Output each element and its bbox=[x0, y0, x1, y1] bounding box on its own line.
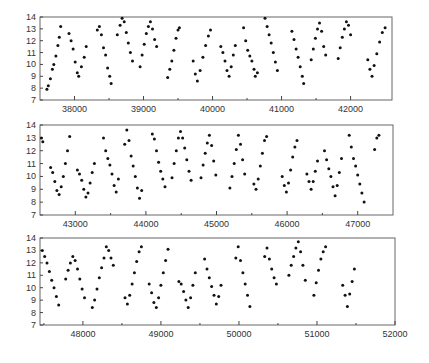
y-tick-label: 10 bbox=[26, 283, 36, 293]
y-tick-label: 8 bbox=[31, 83, 36, 93]
y-tick-label: 7 bbox=[31, 210, 36, 220]
panel-2: 78910111213144300044000450004600047000 bbox=[26, 120, 393, 229]
y-tick-label: 12 bbox=[26, 146, 36, 156]
y-tick-label: 10 bbox=[26, 171, 36, 181]
y-tick-label: 9 bbox=[31, 184, 36, 194]
y-tick-label: 9 bbox=[31, 71, 36, 81]
plot-frame bbox=[40, 125, 393, 215]
x-tick-label: 50000 bbox=[226, 329, 251, 339]
y-tick-label: 12 bbox=[26, 258, 36, 268]
x-tick-label: 43000 bbox=[63, 219, 88, 229]
plot-frame bbox=[40, 238, 395, 325]
y-tick-label: 8 bbox=[31, 308, 36, 318]
x-tick-label: 49000 bbox=[148, 329, 173, 339]
y-tick-label: 7 bbox=[31, 95, 36, 105]
x-tick-label: 42000 bbox=[338, 104, 363, 114]
y-tick-label: 12 bbox=[26, 36, 36, 46]
y-tick-label: 13 bbox=[26, 245, 36, 255]
y-tick-label: 11 bbox=[27, 159, 36, 169]
x-tick-label: 51000 bbox=[304, 329, 329, 339]
y-tick-label: 14 bbox=[26, 120, 36, 130]
x-tick-label: 44000 bbox=[133, 219, 158, 229]
x-tick-label: 45000 bbox=[204, 219, 229, 229]
y-tick-label: 7 bbox=[31, 320, 36, 330]
x-tick-label: 47000 bbox=[345, 219, 370, 229]
y-tick-label: 10 bbox=[26, 59, 36, 69]
y-tick-label: 13 bbox=[26, 24, 36, 34]
panel-1: 78910111213143800039000400004100042000 bbox=[26, 12, 392, 114]
x-tick-label: 38000 bbox=[62, 104, 87, 114]
y-tick-label: 14 bbox=[26, 233, 36, 243]
y-tick-label: 11 bbox=[27, 270, 36, 280]
x-tick-label: 52000 bbox=[382, 329, 407, 339]
y-tick-label: 11 bbox=[27, 48, 36, 58]
x-tick-label: 40000 bbox=[200, 104, 225, 114]
x-tick-label: 39000 bbox=[131, 104, 156, 114]
x-tick-label: 48000 bbox=[70, 329, 95, 339]
y-tick-label: 13 bbox=[26, 133, 36, 143]
x-tick-label: 41000 bbox=[269, 104, 294, 114]
y-tick-label: 14 bbox=[26, 12, 36, 22]
chart: 7891011121314380003900040000410004200078… bbox=[0, 0, 429, 363]
y-tick-label: 9 bbox=[31, 295, 36, 305]
x-tick-label: 46000 bbox=[275, 219, 300, 229]
panel-3: 78910111213144800049000500005100052000 bbox=[26, 233, 408, 339]
y-tick-label: 8 bbox=[31, 197, 36, 207]
